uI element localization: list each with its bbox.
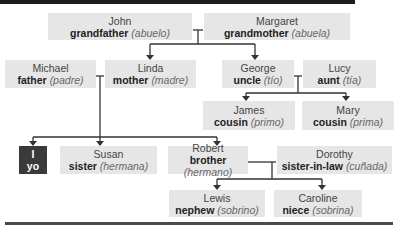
relation-label: sister-in-law xyxy=(282,160,343,172)
relation-label: cousin xyxy=(313,116,347,128)
person-michael: Michael father (padre) xyxy=(5,60,96,88)
person-name: Caroline xyxy=(274,192,362,204)
spanish-label: (tía) xyxy=(343,74,362,86)
spanish-label: (hermano) xyxy=(184,166,232,178)
person-john: John grandfather (abuelo) xyxy=(48,13,192,40)
person-margaret: Margaret grandmother (abuela) xyxy=(204,13,350,40)
person-name: Michael xyxy=(5,62,96,74)
relation-label: mother xyxy=(113,74,149,86)
person-name: Robert xyxy=(168,142,248,154)
footer-bar xyxy=(5,222,393,225)
spanish-label: (abuelo) xyxy=(131,27,170,39)
person-linda: Linda mother (madre) xyxy=(105,60,196,88)
person-lucy: Lucy aunt (tía) xyxy=(303,60,376,88)
spanish-label: (primo) xyxy=(251,116,284,128)
person-susan: Susan sister (hermana) xyxy=(60,146,157,174)
spanish-label: (hermana) xyxy=(100,160,148,172)
spanish-label: (tío) xyxy=(264,74,283,86)
relation-label: brother xyxy=(190,154,227,166)
spanish-label: (sobrino) xyxy=(217,204,258,216)
person-name: Mary xyxy=(302,104,394,116)
spanish-label: (abuela) xyxy=(292,27,331,39)
person-name: Linda xyxy=(105,62,196,74)
relation-label: uncle xyxy=(233,74,260,86)
spanish-label: (madre) xyxy=(151,74,188,86)
relation-label: cousin xyxy=(214,116,248,128)
relation-label: father xyxy=(18,74,47,86)
spanish-label: (cuñada) xyxy=(346,160,387,172)
person-george: George uncle (tío) xyxy=(222,60,294,88)
relation-label: sister xyxy=(69,160,97,172)
relation-label: aunt xyxy=(318,74,340,86)
person-me: I yo xyxy=(19,146,47,174)
spanish-label: (prima) xyxy=(350,116,383,128)
person-name: Lewis xyxy=(169,192,265,204)
spanish-label: (sobrina) xyxy=(312,204,353,216)
person-name: Susan xyxy=(60,148,157,160)
person-robert: Robert brother (hermano) xyxy=(168,146,248,174)
person-name: George xyxy=(222,62,294,74)
person-james: James cousin (primo) xyxy=(203,101,295,130)
spanish-label: (padre) xyxy=(50,74,84,86)
person-dorothy: Dorothy sister-in-law (cuñada) xyxy=(277,146,392,174)
person-lewis: Lewis nephew (sobrino) xyxy=(169,190,265,217)
person-name: Margaret xyxy=(204,15,350,27)
relation-label: yo xyxy=(27,160,39,172)
relation-label: grandmother xyxy=(224,27,289,39)
person-name: James xyxy=(203,104,295,116)
person-mary: Mary cousin (prima) xyxy=(302,101,394,130)
person-caroline: Caroline niece (sobrina) xyxy=(274,190,362,217)
person-name: John xyxy=(48,15,192,27)
person-name: Dorothy xyxy=(277,148,392,160)
relation-label: niece xyxy=(282,204,309,216)
person-name: I xyxy=(19,148,47,160)
relation-label: grandfather xyxy=(70,27,128,39)
relation-label: nephew xyxy=(175,204,214,216)
person-name: Lucy xyxy=(303,62,376,74)
